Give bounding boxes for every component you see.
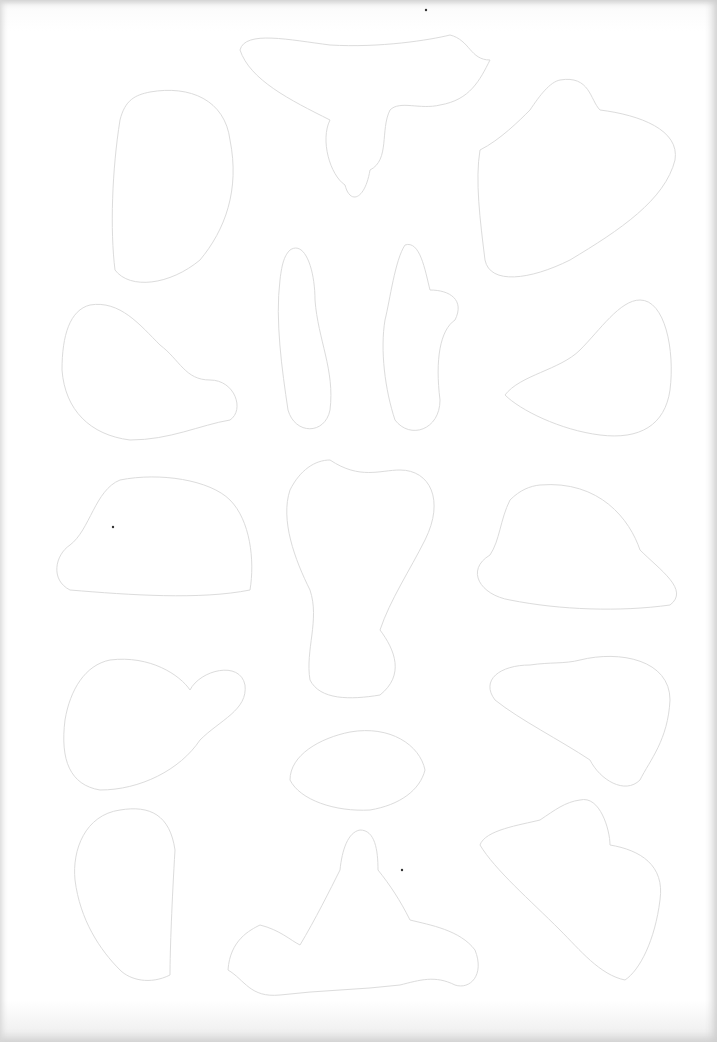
- blob-shape: [290, 731, 425, 811]
- blob-shape: [112, 90, 233, 282]
- blob-shape: [57, 477, 252, 596]
- blob-shape: [240, 35, 490, 197]
- speck-mark: [112, 526, 114, 528]
- blob-shape: [64, 659, 245, 790]
- blob-shape: [480, 800, 661, 980]
- blob-shape: [278, 248, 331, 429]
- blob-shape: [228, 830, 478, 995]
- blob-shape: [490, 656, 670, 786]
- blob-shape: [287, 460, 434, 698]
- blob-shape: [478, 79, 675, 277]
- blob-shape: [62, 304, 237, 440]
- blob-shape: [75, 809, 175, 981]
- blob-shape: [383, 244, 458, 430]
- scanned-sheet: [0, 0, 717, 1042]
- speck-mark: [425, 9, 427, 11]
- speck-mark: [401, 869, 403, 871]
- blob-shape: [505, 300, 671, 436]
- blob-outlines: [0, 0, 717, 1042]
- blob-shape: [477, 485, 676, 610]
